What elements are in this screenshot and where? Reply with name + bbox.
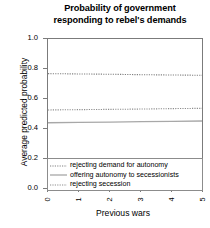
chart-title-line-2: responding to rebel's demands — [30, 15, 210, 27]
x-tick-label-0: 0 — [43, 195, 52, 205]
y-tick-label-5: 1.0 — [27, 33, 38, 42]
chart-title: Probability of government responding to … — [30, 3, 210, 26]
x-tick-label-4: 4 — [167, 195, 176, 205]
legend-dotted-line-icon — [50, 162, 67, 170]
chart-title-line-1: Probability of government — [30, 3, 210, 15]
y-tick-label-3: 0.6 — [27, 93, 38, 102]
series-line-offering-autonomy-to-secessionists — [48, 121, 203, 123]
legend-label-1: offering autonomy to secessionists — [70, 171, 179, 180]
x-tick-label-5: 5 — [198, 195, 207, 205]
y-tick-label-2: 0.4 — [27, 123, 38, 132]
series-line-rejecting-demand-for-autonomy — [48, 74, 203, 76]
y-tick-label-1: 0.2 — [27, 153, 38, 162]
legend-label-2: rejecting secession — [70, 180, 130, 189]
legend-item-rejecting-demand-for-autonomy: rejecting demand for autonomy — [50, 161, 202, 171]
series-line-rejecting-secession — [48, 108, 203, 110]
x-tick-label-3: 3 — [136, 195, 145, 205]
y-axis-label: Average predicted probability — [19, 32, 29, 192]
y-tick-label-4: 0.8 — [27, 63, 38, 72]
chart-figure: Probability of government responding to … — [0, 0, 210, 228]
y-tick-label-0: 0.0 — [27, 183, 38, 192]
legend-dotted-line-icon-2 — [50, 181, 67, 189]
legend-solid-line-icon — [50, 171, 67, 179]
legend-item-offering-autonomy-to-secessionists: offering autonomy to secessionists — [50, 171, 202, 181]
x-tick-label-2: 2 — [105, 195, 114, 205]
legend: rejecting demand for autonomy offering a… — [47, 158, 203, 191]
x-axis-label: Previous wars — [38, 208, 208, 218]
legend-item-rejecting-secession: rejecting secession — [50, 180, 202, 190]
x-tick-label-1: 1 — [74, 195, 83, 205]
legend-label-0: rejecting demand for autonomy — [70, 161, 168, 170]
